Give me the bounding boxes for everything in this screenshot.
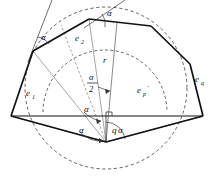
label-alpha-half-denominator: 2: [89, 84, 94, 94]
label-e2-subscript: 2: [81, 39, 84, 45]
label-alpha-upper-left: α: [41, 32, 46, 42]
label-q-alpha-symbol: α: [118, 125, 123, 135]
label-ep-prime-subscript: p: [142, 91, 146, 97]
label-ep-prime-mark: ': [147, 84, 149, 92]
edge-apex-left: [11, 116, 106, 142]
circumscribed-circle: [25, 7, 187, 169]
arrowhead-alpha-half: [105, 89, 110, 94]
label-e1: e: [26, 88, 30, 98]
label-eq: e: [195, 74, 199, 84]
tangent-line-top: [84, 0, 125, 28]
figure-canvas: e 1 e 2 r α 2 α α α α q α e p ' e q: [0, 0, 212, 184]
edge-eq: [190, 64, 203, 116]
label-ep-prime: e: [137, 85, 141, 95]
label-alpha-top-right: α: [107, 8, 112, 18]
edge-e1: [11, 51, 33, 116]
edge-right-upper: [151, 26, 190, 64]
label-eq-subscript: q: [201, 80, 204, 86]
geometry-figure: e 1 e 2 r α 2 α α α α q α e p ' e q: [0, 0, 212, 184]
label-e1-subscript: 1: [32, 94, 35, 100]
edge-top-right: [89, 19, 151, 26]
label-alpha-center-upper: α: [84, 104, 89, 114]
label-radius-r: r: [103, 55, 107, 65]
label-e2: e: [75, 33, 79, 43]
radius-line-r: [106, 22, 117, 142]
label-q-coefficient: q: [112, 125, 117, 135]
label-alpha-half-numerator: α: [89, 72, 94, 82]
label-alpha-apex: α: [79, 125, 84, 135]
